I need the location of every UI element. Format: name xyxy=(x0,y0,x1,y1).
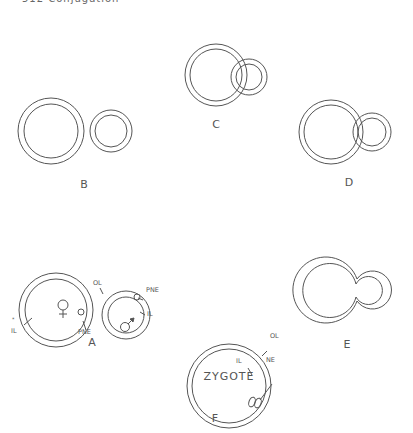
panel-e-nuclei xyxy=(293,257,392,323)
label-ne-f: NE xyxy=(266,356,275,364)
panel-d-nuclei xyxy=(299,100,391,164)
conjugation-diagram: C B D E A F OL PNE IL IL * PNE OL IL NE … xyxy=(0,0,413,433)
label-asterisk: * xyxy=(12,316,15,322)
label-il-f: IL xyxy=(236,357,242,365)
label-pne-a-right: PNE xyxy=(146,286,159,294)
panel-b-nuclei xyxy=(18,98,132,164)
zygote-label: ZYGOTE xyxy=(203,370,254,383)
panel-b-label: B xyxy=(80,178,88,191)
panel-d-label: D xyxy=(345,176,353,189)
label-il-a-left: IL xyxy=(11,327,17,335)
panel-c-nuclei xyxy=(185,44,267,106)
panel-f-label: F xyxy=(212,412,218,425)
panel-c-label: C xyxy=(212,118,220,131)
panel-e-label: E xyxy=(344,338,351,351)
panel-a-label: A xyxy=(88,336,96,349)
label-ol-a: OL xyxy=(93,279,102,287)
label-pne-a-left: PNE xyxy=(78,328,91,336)
label-ol-f: OL xyxy=(270,332,279,340)
label-il-a-right: IL xyxy=(147,310,153,318)
panel-f-zygote xyxy=(187,344,272,428)
